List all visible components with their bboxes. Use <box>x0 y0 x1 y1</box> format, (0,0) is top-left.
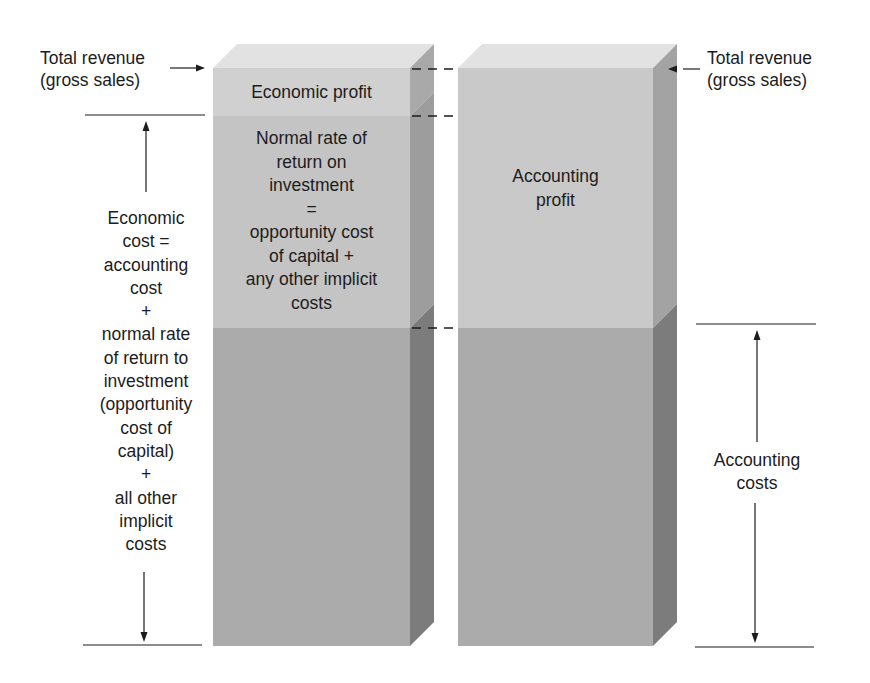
left-block-side-cost <box>410 304 434 646</box>
accounting-profit-label: Accounting profit <box>458 164 653 212</box>
normal-return-line: any other implicit <box>213 268 410 292</box>
economic-cost-line: accounting <box>84 254 208 277</box>
economic-profit-label: Economic profit <box>213 82 410 104</box>
right-block-side-profit <box>653 44 677 328</box>
economic-cost-line: + <box>84 300 208 323</box>
economic-cost-down-arrowhead <box>141 632 148 642</box>
total-revenue-right-line-2: (gross sales) <box>707 70 847 92</box>
right-block <box>458 44 677 646</box>
right-block-accounting-cost <box>458 328 653 646</box>
normal-return-line: opportunity cost <box>213 221 410 245</box>
economic-cost-label: Economic cost = accounting cost + normal… <box>84 207 208 556</box>
left-block-top-face <box>213 44 434 68</box>
total-revenue-right-line-1: Total revenue <box>707 48 847 70</box>
right-block-side-cost <box>653 304 677 646</box>
total-revenue-left-line-2: (gross sales) <box>40 70 170 92</box>
economic-cost-line: cost of <box>84 417 208 440</box>
economic-cost-line: all other <box>84 487 208 510</box>
economic-cost-line: + <box>84 463 208 486</box>
accounting-costs-label: Accounting costs <box>695 449 819 495</box>
accounting-costs-line-1: Accounting <box>695 449 819 472</box>
economic-cost-line: cost <box>84 277 208 300</box>
right-block-top-face <box>458 44 677 68</box>
normal-return-line: costs <box>213 292 410 316</box>
accounting-costs-down-arrowhead <box>752 633 759 643</box>
normal-return-line: return on <box>213 151 410 175</box>
total-revenue-right-label: Total revenue (gross sales) <box>707 48 847 91</box>
economic-cost-line: normal rate <box>84 323 208 346</box>
accounting-profit-line-1: Accounting <box>458 164 653 188</box>
economic-cost-line: cost = <box>84 230 208 253</box>
economic-cost-line: of return to <box>84 347 208 370</box>
left-block-accounting-cost <box>213 328 410 646</box>
normal-return-line: investment <box>213 174 410 198</box>
economic-cost-line: investment <box>84 370 208 393</box>
accounting-costs-up-arrowhead <box>754 330 761 340</box>
economic-cost-line: costs <box>84 533 208 556</box>
total-revenue-left-arrowhead <box>196 65 205 72</box>
normal-return-line: Normal rate of <box>213 127 410 151</box>
normal-return-label: Normal rate of return on investment = op… <box>213 127 410 315</box>
economic-cost-line: capital) <box>84 440 208 463</box>
economic-cost-line: (opportunity <box>84 393 208 416</box>
accounting-costs-line-2: costs <box>695 472 819 495</box>
left-block-side-normal-return <box>410 92 434 328</box>
economic-cost-up-arrowhead <box>143 121 150 131</box>
total-revenue-left-label: Total revenue (gross sales) <box>40 48 170 91</box>
total-revenue-left-line-1: Total revenue <box>40 48 170 70</box>
economic-cost-line: implicit <box>84 510 208 533</box>
normal-return-line: of capital + <box>213 245 410 269</box>
accounting-profit-line-2: profit <box>458 188 653 212</box>
economic-profit-text: Economic profit <box>213 82 410 104</box>
normal-return-line: = <box>213 198 410 222</box>
right-annotation-lines <box>668 66 816 648</box>
economic-cost-line: Economic <box>84 207 208 230</box>
